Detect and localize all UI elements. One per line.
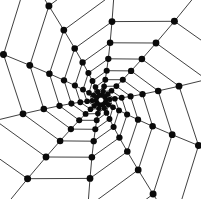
node [128, 68, 134, 74]
edge [4, 0, 29, 55]
node [150, 191, 157, 198]
node [90, 78, 96, 84]
node [84, 98, 90, 104]
node [41, 106, 48, 113]
node [94, 117, 100, 123]
edge [23, 114, 60, 141]
node [105, 56, 111, 62]
node [57, 138, 64, 145]
node [104, 110, 110, 116]
node [68, 101, 74, 107]
node [124, 148, 131, 155]
spiral-network-diagram [0, 0, 201, 199]
network-edges [0, 0, 201, 199]
node [86, 90, 92, 96]
node [155, 88, 162, 95]
edge [143, 94, 153, 126]
node [195, 142, 201, 149]
node [171, 18, 178, 25]
edge [49, 30, 63, 74]
edge [4, 179, 28, 199]
node [111, 124, 117, 130]
edge [4, 55, 30, 66]
node [72, 82, 78, 88]
edge [49, 6, 64, 30]
edge [28, 157, 46, 179]
node [169, 131, 176, 138]
edge [90, 152, 127, 179]
node [61, 77, 67, 83]
node [112, 96, 118, 102]
edge [30, 65, 44, 109]
node [68, 126, 74, 132]
node [102, 77, 108, 83]
node [113, 83, 119, 89]
node [128, 93, 134, 99]
node [46, 70, 53, 77]
node [107, 116, 113, 122]
node [56, 103, 62, 109]
node [139, 56, 146, 63]
node [20, 110, 27, 117]
node [0, 51, 7, 58]
edge [0, 114, 23, 121]
node [100, 89, 105, 94]
edge [156, 21, 174, 43]
edge [138, 126, 152, 170]
edge [60, 106, 80, 121]
node [85, 70, 91, 76]
node [60, 27, 67, 34]
edge [127, 120, 138, 152]
node [26, 62, 33, 69]
node [79, 59, 85, 65]
edge [86, 194, 153, 199]
node [107, 40, 114, 47]
node [91, 138, 97, 144]
node [80, 87, 86, 93]
edge [64, 48, 75, 80]
edge [49, 0, 116, 6]
node [71, 45, 78, 52]
edge [4, 55, 24, 114]
edge [49, 74, 59, 106]
node [96, 106, 101, 111]
node [87, 175, 94, 182]
node [176, 83, 183, 90]
edge [131, 71, 158, 91]
node [93, 84, 99, 90]
node [45, 2, 52, 9]
node [77, 99, 83, 105]
node [139, 91, 145, 97]
node [120, 77, 126, 83]
node [101, 84, 107, 90]
edge [174, 0, 198, 21]
edge [119, 115, 127, 138]
edge [30, 6, 49, 65]
node [104, 68, 110, 74]
edge [174, 146, 199, 200]
node [89, 98, 94, 103]
edge [0, 130, 28, 179]
node [83, 111, 89, 117]
node [24, 175, 31, 182]
node [109, 88, 115, 94]
edge [75, 62, 83, 85]
node [76, 117, 82, 123]
edge [174, 21, 201, 70]
node [92, 126, 98, 132]
node [89, 154, 96, 161]
edge [142, 59, 179, 86]
edge [179, 80, 201, 87]
node [116, 107, 122, 113]
node [109, 18, 116, 25]
node [95, 111, 101, 117]
edge [158, 91, 172, 135]
node [124, 111, 130, 117]
node [116, 134, 122, 140]
edge [123, 80, 143, 95]
edge [153, 135, 172, 194]
node [110, 104, 116, 110]
node [149, 123, 156, 130]
edge [138, 170, 153, 194]
edge [44, 109, 71, 129]
